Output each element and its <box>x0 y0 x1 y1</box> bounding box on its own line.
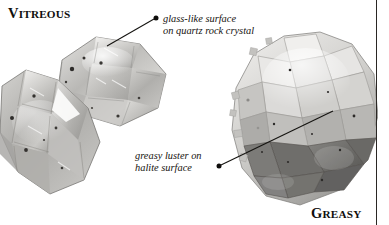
page-edge-rule <box>376 0 377 225</box>
annotation-glass-line1: glass-like surface <box>163 13 254 25</box>
annotation-glass-line2: on quartz rock crystal <box>163 25 254 37</box>
leader-dot-glass <box>154 16 159 21</box>
luster-label-greasy: GREASY <box>311 205 361 221</box>
annotation-glass-like-surface: glass-like surface on quartz rock crysta… <box>163 13 254 36</box>
luster-label-vitreous-initial: V <box>8 5 19 21</box>
luster-label-vitreous: VITREOUS <box>8 5 70 21</box>
annotation-greasy-luster: greasy luster on halite surface <box>135 150 202 173</box>
leader-dot-greasy <box>217 164 222 169</box>
mineral-luster-figure: VITREOUS GREASY glass-like surface on qu… <box>0 0 389 225</box>
annotation-greasy-line2: halite surface <box>135 162 202 174</box>
specimen-halite-image <box>228 30 378 208</box>
luster-label-greasy-rest: REASY <box>322 208 361 220</box>
luster-label-greasy-initial: G <box>311 205 322 221</box>
annotation-greasy-line1: greasy luster on <box>135 150 202 162</box>
luster-label-vitreous-rest: ITREOUS <box>19 8 71 20</box>
